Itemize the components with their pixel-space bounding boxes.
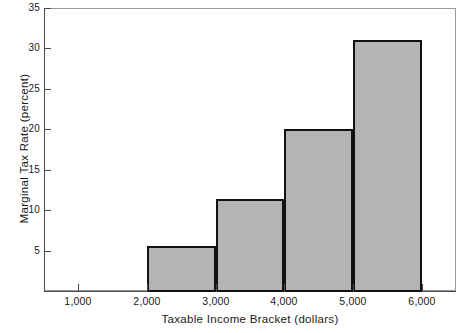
- y-tick-15: [44, 170, 51, 171]
- marginal-tax-rate-bar-chart: 5101520253035 1,0002,0003,0004,0005,0006…: [0, 0, 465, 333]
- y-tick-25: [44, 89, 51, 90]
- x-tick-6000: [422, 284, 423, 292]
- x-tick-3000: [216, 284, 217, 292]
- x-tick-1000: [78, 284, 79, 292]
- bar-5000-6000: [353, 40, 422, 292]
- x-tick-label-3000: 3,000: [186, 295, 246, 307]
- x-tick-2000: [147, 284, 148, 292]
- x-tick-5000: [353, 284, 354, 292]
- x-tick-4000: [284, 284, 285, 292]
- y-tick-label-35: 35: [10, 3, 40, 13]
- y-tick-30: [44, 48, 51, 49]
- x-tick-label-1000: 1,000: [48, 295, 108, 307]
- x-tick-label-2000: 2,000: [117, 295, 177, 307]
- x-axis-title: Taxable Income Bracket (dollars): [44, 313, 456, 326]
- y-axis-title: Marginal Tax Rate (percent): [18, 39, 31, 259]
- y-tick-5: [44, 251, 51, 252]
- y-tick-10: [44, 210, 51, 211]
- y-axis-line: [44, 8, 45, 292]
- bar-3000-4000: [216, 199, 285, 292]
- y-tick-20: [44, 129, 51, 130]
- x-tick-label-6000: 6,000: [392, 295, 452, 307]
- x-tick-label-4000: 4,000: [254, 295, 314, 307]
- x-tick-label-5000: 5,000: [323, 295, 383, 307]
- bar-4000-5000: [284, 129, 353, 292]
- bar-2000-3000: [147, 246, 216, 292]
- y-tick-35: [44, 8, 51, 9]
